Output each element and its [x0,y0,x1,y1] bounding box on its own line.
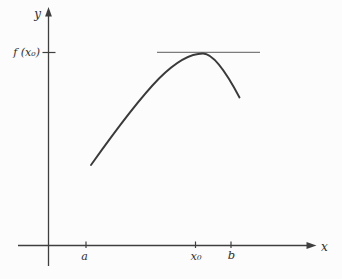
tick-b-label: b [228,248,235,262]
figure-background [0,0,342,279]
figure-canvas: y x f (x₀) a x₀ b [0,0,342,279]
tick-a-label: a [81,250,88,263]
x-axis-label: x [321,240,328,254]
function-maximum-figure: y x f (x₀) a x₀ b [0,0,342,279]
tick-x0-label: x₀ [190,249,201,263]
y-axis-label: y [33,7,41,21]
fx0-label: f (x₀) [12,46,40,59]
